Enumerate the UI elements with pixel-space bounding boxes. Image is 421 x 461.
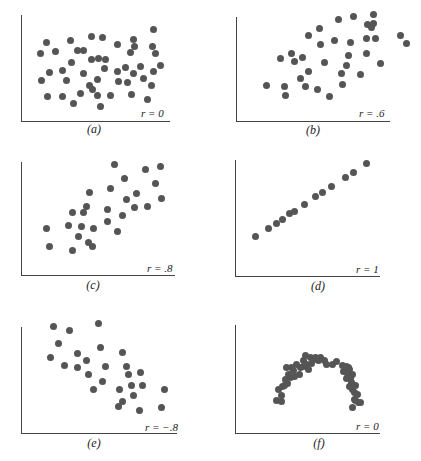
data-point bbox=[131, 204, 138, 211]
data-point bbox=[317, 41, 324, 48]
data-point bbox=[321, 59, 328, 66]
data-point bbox=[305, 366, 312, 373]
data-point bbox=[114, 228, 121, 235]
data-point bbox=[77, 90, 84, 97]
data-point bbox=[46, 69, 53, 76]
r-label-d: r = 1 bbox=[356, 263, 379, 275]
data-point bbox=[83, 203, 90, 210]
data-point bbox=[157, 163, 164, 170]
data-point bbox=[297, 75, 304, 82]
data-point bbox=[339, 81, 346, 88]
data-point bbox=[130, 392, 137, 399]
data-point bbox=[342, 174, 349, 181]
data-point bbox=[370, 11, 377, 18]
data-point bbox=[88, 56, 95, 63]
data-point bbox=[44, 93, 51, 100]
data-point bbox=[104, 206, 111, 213]
data-point bbox=[338, 70, 345, 77]
data-point bbox=[125, 371, 132, 378]
caption-d: (d) bbox=[311, 279, 325, 294]
data-point bbox=[302, 83, 309, 90]
data-point bbox=[128, 382, 135, 389]
data-point bbox=[150, 26, 157, 33]
data-point bbox=[277, 55, 284, 62]
data-point bbox=[74, 364, 81, 371]
data-point bbox=[357, 399, 364, 406]
data-point bbox=[363, 50, 370, 57]
x-axis-d bbox=[235, 276, 380, 277]
data-point bbox=[88, 33, 95, 40]
r-label-c: r = .8 bbox=[147, 262, 172, 274]
data-point bbox=[377, 60, 384, 67]
y-axis-f bbox=[235, 325, 236, 433]
data-point bbox=[78, 223, 85, 230]
y-axis-a bbox=[21, 15, 22, 121]
data-point bbox=[130, 70, 137, 77]
data-point bbox=[107, 92, 114, 99]
data-point bbox=[59, 93, 66, 100]
data-point bbox=[133, 190, 140, 197]
data-point bbox=[37, 50, 44, 57]
data-point bbox=[89, 86, 96, 93]
data-point bbox=[86, 189, 93, 196]
scatter-correlation-figure bbox=[0, 0, 421, 461]
data-point bbox=[102, 56, 109, 63]
data-point bbox=[152, 180, 159, 187]
data-point bbox=[149, 43, 156, 50]
caption-b: (b) bbox=[306, 123, 320, 138]
data-point bbox=[252, 233, 259, 240]
x-axis-f bbox=[235, 433, 380, 434]
caption-c: (c) bbox=[86, 278, 99, 293]
data-point bbox=[43, 39, 50, 46]
data-point bbox=[128, 91, 135, 98]
data-point bbox=[139, 382, 146, 389]
data-point bbox=[345, 52, 352, 59]
data-point bbox=[80, 70, 87, 77]
data-point bbox=[157, 62, 164, 69]
data-point bbox=[290, 367, 297, 374]
data-point bbox=[114, 68, 121, 75]
data-point bbox=[80, 47, 87, 54]
data-point bbox=[102, 363, 109, 370]
data-point bbox=[397, 32, 404, 39]
data-point bbox=[97, 344, 104, 351]
data-point bbox=[296, 371, 303, 378]
data-point bbox=[312, 193, 319, 200]
y-axis-c bbox=[21, 162, 22, 275]
data-point bbox=[305, 32, 312, 39]
data-point bbox=[328, 183, 335, 190]
data-point bbox=[357, 71, 364, 78]
data-point bbox=[144, 203, 151, 210]
data-point bbox=[281, 83, 288, 90]
data-point bbox=[299, 54, 306, 61]
data-point bbox=[104, 218, 111, 225]
data-point bbox=[74, 350, 81, 357]
data-point bbox=[137, 63, 144, 70]
data-point bbox=[46, 243, 53, 250]
caption-e: (e) bbox=[87, 436, 100, 451]
data-point bbox=[152, 50, 159, 57]
data-point bbox=[107, 185, 114, 192]
data-point bbox=[288, 50, 295, 57]
data-point bbox=[161, 386, 168, 393]
r-label-e: r = −.8 bbox=[145, 421, 178, 433]
data-point bbox=[101, 65, 108, 72]
x-axis-b bbox=[236, 121, 390, 122]
data-point bbox=[116, 386, 123, 393]
data-point bbox=[52, 48, 59, 55]
data-point bbox=[69, 209, 76, 216]
data-point bbox=[263, 82, 270, 89]
data-point bbox=[265, 225, 272, 232]
data-point bbox=[38, 77, 45, 84]
data-point bbox=[75, 233, 82, 240]
data-point bbox=[142, 166, 149, 173]
data-point bbox=[301, 201, 308, 208]
data-point bbox=[43, 225, 50, 232]
data-point bbox=[335, 16, 342, 23]
data-point bbox=[114, 41, 121, 48]
data-point bbox=[89, 243, 96, 250]
data-point bbox=[80, 209, 87, 216]
r-label-b: r = .6 bbox=[359, 107, 384, 119]
data-point bbox=[66, 327, 73, 334]
data-point bbox=[282, 92, 289, 99]
